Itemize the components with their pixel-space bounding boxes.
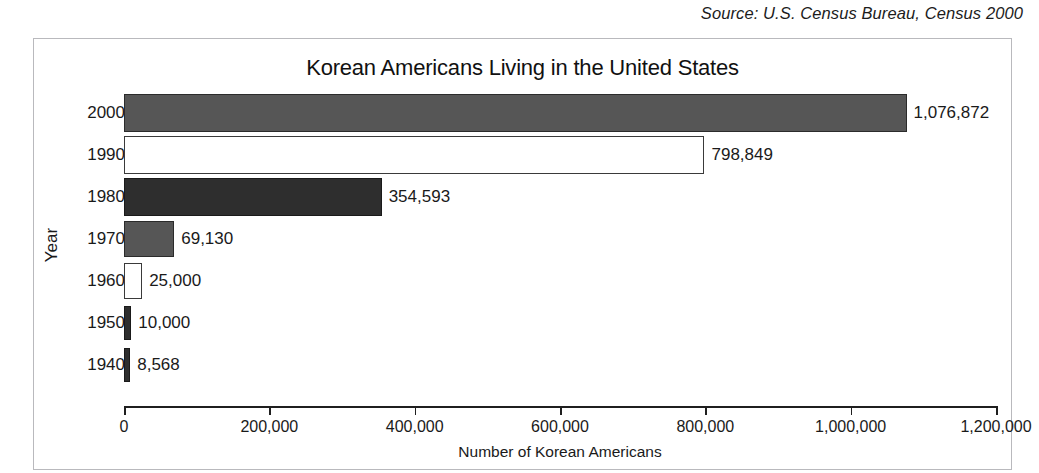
x-tick [269, 406, 271, 415]
x-tick-label: 400,000 [386, 418, 444, 436]
x-tick [705, 406, 707, 415]
bar-1990 [124, 136, 704, 174]
bar-1960 [124, 263, 142, 299]
bar-value-label: 798,849 [711, 145, 772, 165]
bar-row: 1970 69,130 [34, 219, 1013, 259]
bar-1940 [124, 348, 130, 382]
bar-value-label: 354,593 [389, 187, 450, 207]
bar-1950 [124, 306, 131, 340]
x-tick [415, 406, 417, 415]
x-tick [560, 406, 562, 415]
chart-figure-frame: Korean Americans Living in the United St… [33, 38, 1012, 470]
plot-area: Year 2000 1,076,872 1990 798,849 1980 35… [34, 39, 1013, 471]
x-tick-label: 1,000,000 [815, 418, 886, 436]
bar-value-label: 8,568 [137, 355, 180, 375]
y-tick-label: 1950 [55, 303, 125, 343]
x-tick-label: 1,200,000 [960, 418, 1031, 436]
bar-value-label: 69,130 [181, 229, 233, 249]
bar-row: 1960 25,000 [34, 261, 1013, 301]
x-tick [996, 406, 998, 415]
bar-value-label: 10,000 [138, 313, 190, 333]
bar-1980 [124, 178, 382, 216]
x-tick-label: 0 [120, 418, 129, 436]
y-tick-label: 1940 [55, 345, 125, 385]
bar-2000 [124, 94, 907, 132]
bar-row: 1980 354,593 [34, 177, 1013, 217]
bar-row: 1940 8,568 [34, 345, 1013, 385]
x-tick-label: 800,000 [676, 418, 734, 436]
x-axis-title: Number of Korean Americans [124, 443, 996, 461]
y-tick-label: 1980 [55, 177, 125, 217]
bar-value-label: 25,000 [149, 271, 201, 291]
x-tick-label: 600,000 [531, 418, 589, 436]
bar-row: 2000 1,076,872 [34, 93, 1013, 133]
y-tick-label: 1990 [55, 135, 125, 175]
x-tick-label: 200,000 [240, 418, 298, 436]
bar-1970 [124, 221, 174, 257]
y-tick-label: 1970 [55, 219, 125, 259]
bar-row: 1950 10,000 [34, 303, 1013, 343]
y-tick-label: 1960 [55, 261, 125, 301]
bar-value-label: 1,076,872 [914, 103, 990, 123]
x-tick [124, 406, 126, 415]
bar-row: 1990 798,849 [34, 135, 1013, 175]
y-tick-label: 2000 [55, 93, 125, 133]
x-tick [851, 406, 853, 415]
source-credit: Source: U.S. Census Bureau, Census 2000 [701, 4, 1023, 23]
